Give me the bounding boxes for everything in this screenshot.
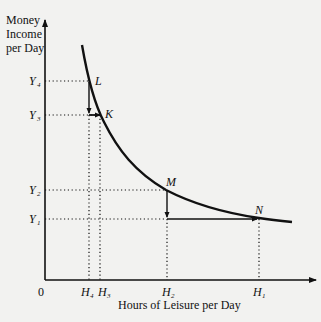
x-axis-label: Hours of Leisure per Day bbox=[118, 298, 241, 312]
point-M-label: M bbox=[165, 175, 177, 189]
y-axis-label-3: per Day bbox=[6, 41, 44, 55]
x-tick-H4: H 4 bbox=[80, 285, 94, 300]
leisure-income-diagram: Money Income per Day Y 4 Y 3 Y 2 Y 1 0 H… bbox=[0, 0, 321, 322]
svg-text:4: 4 bbox=[37, 81, 41, 89]
y-axis-label-1: Money bbox=[6, 13, 40, 27]
y-axis-label-2: Income bbox=[6, 27, 42, 41]
y-tick-Y4: Y 4 bbox=[29, 74, 41, 89]
indifference-curve bbox=[82, 45, 292, 222]
y-tick-Y3: Y 3 bbox=[29, 108, 41, 123]
svg-text:3: 3 bbox=[106, 292, 111, 300]
svg-text:4: 4 bbox=[90, 292, 94, 300]
svg-text:3: 3 bbox=[36, 115, 41, 123]
x-tick-H3: H 3 bbox=[97, 285, 111, 300]
point-K-label: K bbox=[104, 107, 114, 121]
point-N-label: N bbox=[254, 203, 264, 217]
svg-text:1: 1 bbox=[37, 219, 41, 227]
y-tick-Y2: Y 2 bbox=[29, 183, 41, 198]
origin-label: 0 bbox=[38, 285, 44, 299]
svg-text:Y: Y bbox=[29, 183, 37, 197]
point-L-label: L bbox=[94, 74, 102, 88]
svg-text:Y: Y bbox=[29, 74, 37, 88]
svg-text:Y: Y bbox=[29, 212, 37, 226]
x-tick-H1: H 1 bbox=[252, 285, 266, 300]
svg-text:2: 2 bbox=[37, 190, 41, 198]
svg-text:1: 1 bbox=[262, 292, 266, 300]
svg-text:Y: Y bbox=[29, 108, 37, 122]
y-tick-Y1: Y 1 bbox=[29, 212, 41, 227]
